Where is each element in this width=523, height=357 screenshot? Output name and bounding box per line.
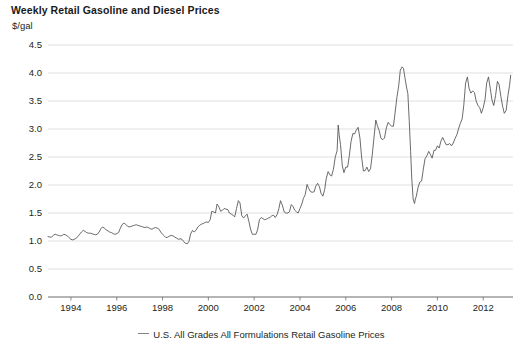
x-tick-label: 1998 [152, 302, 173, 313]
y-tick-label: 1.5 [29, 207, 42, 218]
y-axis-tick-labels: 4.54.03.53.02.52.01.51.00.50.0 [29, 39, 42, 302]
y-tick-label: 2.5 [29, 151, 42, 162]
series-line-0 [48, 67, 511, 244]
gasoline-price-chart: Weekly Retail Gasoline and Diesel Prices… [0, 0, 523, 357]
x-axis-tickmarks [71, 297, 483, 301]
chart-legend: U.S. All Grades All Formulations Retail … [0, 328, 523, 340]
x-tick-label: 2012 [473, 302, 494, 313]
y-tick-label: 0.0 [29, 291, 42, 302]
y-tick-label: 0.5 [29, 263, 42, 274]
legend-label-gasoline: U.S. All Grades All Formulations Retail … [153, 329, 384, 340]
x-tick-label: 2006 [335, 302, 356, 313]
y-tick-label: 4.0 [29, 67, 42, 78]
x-tick-label: 2010 [427, 302, 448, 313]
x-axis-tick-labels: 1994199619982000200220042006200820102012 [60, 302, 493, 313]
x-tick-label: 2000 [198, 302, 219, 313]
y-tick-label: 3.5 [29, 95, 42, 106]
y-tick-label: 1.0 [29, 235, 42, 246]
y-tick-label: 3.0 [29, 123, 42, 134]
x-tick-label: 2004 [289, 302, 310, 313]
y-tick-label: 2.0 [29, 179, 42, 190]
x-tick-label: 2008 [381, 302, 402, 313]
series-lines-group [48, 67, 511, 244]
x-tick-label: 1994 [60, 302, 81, 313]
x-tick-label: 2002 [244, 302, 265, 313]
plot-area: 4.54.03.53.02.52.01.51.00.50.0 199419961… [0, 0, 523, 357]
y-tick-label: 4.5 [29, 39, 42, 50]
legend-line-swatch [138, 333, 149, 334]
x-tick-label: 1996 [106, 302, 127, 313]
gridlines-group [48, 45, 513, 297]
